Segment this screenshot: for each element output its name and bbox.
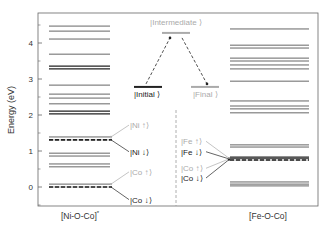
state-label: |Co ↓⟩ bbox=[130, 196, 152, 205]
arrow-head bbox=[110, 136, 112, 138]
relaxation-arrow bbox=[182, 38, 207, 84]
y-axis: 01234 bbox=[29, 25, 42, 205]
transition-inset: |Initial ⟩|Intermediate ⟩|Final ⟩ bbox=[134, 18, 219, 99]
arrow-head bbox=[110, 186, 112, 188]
initial-label: |Initial ⟩ bbox=[134, 90, 160, 99]
arrow-head bbox=[206, 83, 209, 86]
y-tick-label: 1 bbox=[29, 147, 34, 156]
energy-levels bbox=[49, 26, 309, 187]
state-annotations: |Ni ↑⟩|Ni ↓⟩|Co ↑⟩|Co ↓⟩|Fe ↑⟩|Fe ↓⟩|Co … bbox=[110, 121, 230, 205]
annotation-arrow bbox=[111, 172, 129, 184]
state-label: |Ni ↑⟩ bbox=[130, 121, 149, 130]
state-label: |Co ↓⟩ bbox=[181, 174, 203, 183]
plot-frame bbox=[38, 13, 318, 206]
y-tick-label: 0 bbox=[29, 183, 34, 192]
arrow-head bbox=[110, 183, 112, 185]
annotation-arrow bbox=[111, 125, 129, 137]
energy-level-diagram: 01234 Energy (eV) |Ni ↑⟩|Ni ↓⟩|Co ↑⟩|Co … bbox=[0, 0, 330, 234]
state-label: |Fe ↑⟩ bbox=[181, 137, 202, 146]
y-axis-title: Energy (eV) bbox=[6, 86, 16, 134]
diagram-svg: 01234 Energy (eV) |Ni ↑⟩|Ni ↓⟩|Co ↑⟩|Co … bbox=[0, 0, 330, 234]
y-tick-label: 4 bbox=[29, 39, 34, 48]
y-tick-label: 3 bbox=[29, 75, 34, 84]
column-label: [Ni-O-Co]* bbox=[61, 210, 100, 221]
arrow-head bbox=[169, 37, 172, 40]
arrow-head bbox=[228, 159, 230, 161]
column-label: [Fe-O-Co] bbox=[249, 211, 287, 221]
column-label-superscript: * bbox=[97, 210, 100, 216]
column-labels: [Ni-O-Co]*[Fe-O-Co] bbox=[61, 210, 287, 221]
annotation-arrow bbox=[206, 160, 229, 178]
annotation-arrow bbox=[111, 187, 129, 200]
excitation-arrow bbox=[146, 38, 170, 84]
state-label: |Fe ↓⟩ bbox=[181, 148, 202, 157]
final-label: |Final ⟩ bbox=[193, 90, 218, 99]
annotation-arrow bbox=[206, 159, 229, 168]
state-label: |Co ↑⟩ bbox=[181, 164, 203, 173]
intermediate-label: |Intermediate ⟩ bbox=[150, 18, 202, 27]
arrow-head bbox=[110, 139, 112, 141]
state-label: |Co ↑⟩ bbox=[130, 168, 152, 177]
y-tick-label: 2 bbox=[29, 111, 34, 120]
annotation-arrow bbox=[111, 140, 129, 152]
state-label: |Ni ↓⟩ bbox=[130, 148, 149, 157]
